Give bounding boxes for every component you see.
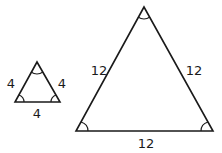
small-side-base-label: 4: [33, 106, 41, 121]
angle-mark-apex: [31, 72, 43, 74]
angle-mark-bottom-right: [51, 95, 56, 102]
small-side-right-label: 4: [58, 76, 66, 91]
diagram-canvas: 4 4 4 12 12 12: [0, 0, 222, 153]
angle-mark-apex: [138, 17, 150, 19]
angle-mark-bottom-right: [201, 122, 208, 131]
large-triangle: 12 12 12: [76, 7, 213, 151]
large-side-base-label: 12: [138, 136, 155, 151]
angle-mark-bottom-left: [19, 95, 24, 102]
small-side-left-label: 4: [7, 76, 15, 91]
angle-mark-bottom-left: [81, 122, 88, 131]
large-side-left-label: 12: [91, 63, 108, 78]
triangles-figure: 4 4 4 12 12 12: [0, 0, 222, 153]
large-side-right-label: 12: [186, 63, 203, 78]
small-triangle: 4 4 4: [7, 62, 66, 121]
